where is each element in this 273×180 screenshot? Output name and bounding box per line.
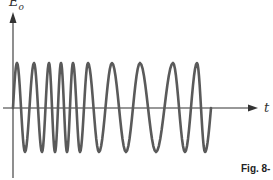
x-axis-label: t: [264, 100, 269, 115]
y-axis-label: Eo: [9, 0, 24, 12]
figure-caption: Fig. 8-: [241, 163, 270, 174]
figure: Eo t Fig. 8-: [0, 0, 273, 180]
x-axis-arrowhead-icon: [248, 105, 258, 112]
waveform-plot: [0, 0, 273, 180]
y-axis-arrowhead-icon: [10, 12, 17, 23]
